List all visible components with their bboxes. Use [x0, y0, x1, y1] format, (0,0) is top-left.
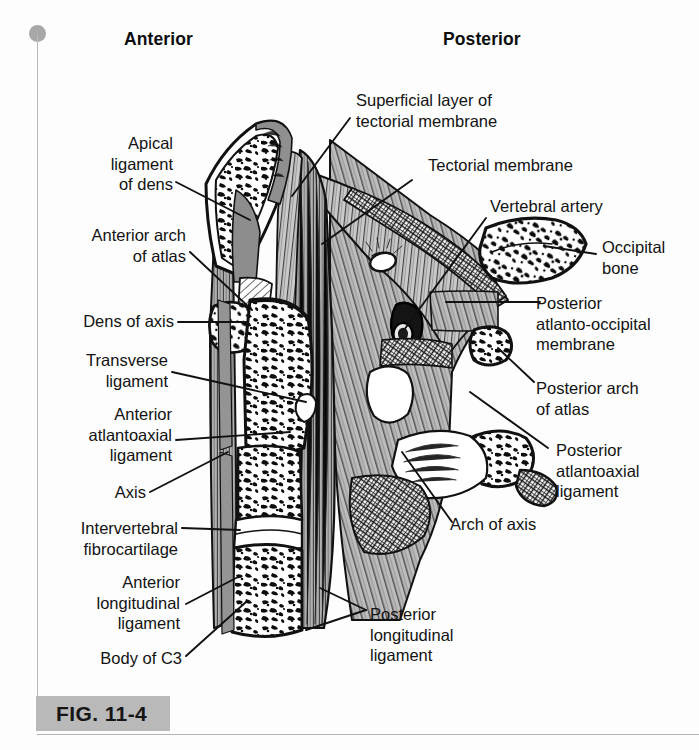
label-superficial-layer-of-tectorial-membrane: Superficial layer of tectorial membrane: [356, 90, 586, 131]
label-posterior-atlanto-occipital-membrane: Posterior atlanto-occipital membrane: [536, 293, 699, 355]
label-anterior-arch-of-atlas: Anterior arch of atlas: [0, 225, 186, 266]
label-posterior-longitudinal-ligament: Posterior longitudinal ligament: [370, 604, 530, 666]
figure-number-label: FIG. 11-4: [56, 702, 147, 726]
label-body-of-c3: Body of C3: [0, 648, 182, 669]
label-intervertebral-fibrocartilage: Intervertebral fibrocartilage: [0, 518, 178, 559]
label-occipital-bone: Occipital bone: [602, 237, 698, 278]
label-anterior-atlantoaxial-ligament: Anterior atlantoaxial ligament: [0, 404, 172, 466]
figure-page: FIG. 11-4 Anterior Posterior Apical liga…: [0, 0, 699, 750]
label-anterior-longitudinal-ligament: Anterior longitudinal ligament: [0, 572, 180, 634]
label-tectorial-membrane: Tectorial membrane: [428, 155, 640, 176]
figure-number-band: FIG. 11-4: [36, 696, 170, 731]
orientation-label-posterior: Posterior: [443, 29, 521, 50]
label-posterior-arch-of-atlas: Posterior arch of atlas: [536, 378, 696, 419]
label-arch-of-axis: Arch of axis: [450, 514, 610, 535]
label-transverse-ligament: Transverse ligament: [0, 350, 168, 391]
label-axis: Axis: [0, 482, 146, 503]
page-bottom-rule: [37, 734, 699, 735]
label-posterior-atlantoaxial-ligament: Posterior atlantoaxial ligament: [556, 440, 698, 502]
label-apical-ligament-of-dens: Apical ligament of dens: [10, 133, 173, 195]
orientation-label-anterior: Anterior: [124, 29, 193, 50]
label-vertebral-artery: Vertebral artery: [490, 196, 680, 217]
label-dens-of-axis: Dens of axis: [0, 311, 174, 332]
